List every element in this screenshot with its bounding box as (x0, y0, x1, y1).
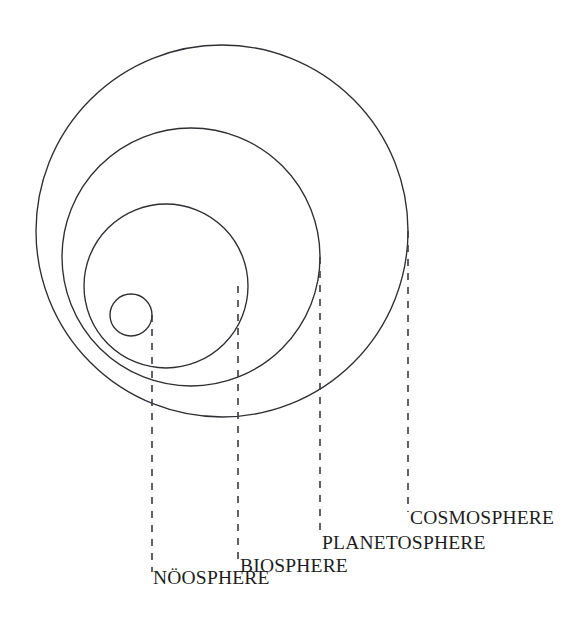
label-planetosphere: PLANETOSPHERE (322, 533, 486, 553)
label-cosmosphere: COSMOSPHERE (410, 508, 554, 528)
circle-noosphere (110, 294, 152, 336)
circle-cosmosphere (36, 45, 408, 417)
sphere-svg-canvas (0, 0, 585, 634)
circle-biosphere (84, 204, 248, 368)
nested-spheres-diagram: COSMOSPHERE PLANETOSPHERE BIOSPHERE NÖOS… (0, 0, 585, 634)
circle-planetosphere (62, 128, 320, 386)
label-noosphere: NÖOSPHERE (153, 568, 270, 588)
